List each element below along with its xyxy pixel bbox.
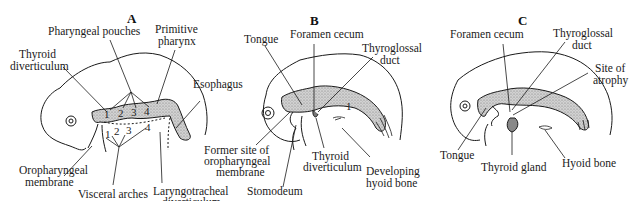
pouch-number-1: 1	[104, 108, 110, 120]
label-laryngotracheal-2: diverticulum	[162, 196, 221, 201]
arch-number-4: 4	[145, 121, 151, 133]
label-visceral-arches: Visceral arches	[78, 188, 148, 200]
label-thyroid-gland: Thyroid gland	[481, 161, 546, 173]
label-stomodeum: Stomodeum	[247, 185, 303, 197]
panel-b-letter: B	[310, 13, 319, 29]
label-oropharyngeal-1: Oropharyngeal	[19, 164, 88, 176]
panel-c-letter: C	[518, 13, 527, 29]
label-b-thyroglossal-2: duct	[380, 54, 400, 66]
label-b-tongue: Tongue	[244, 33, 278, 45]
pouch-number-3: 3	[131, 106, 137, 118]
panel-c-embryo	[451, 52, 612, 146]
label-b-foramen-cecum: Foramen cecum	[290, 28, 364, 40]
label-former-site-3: membrane	[216, 166, 265, 178]
label-site-of-atrophy-1: Site of	[595, 62, 625, 74]
arch-number-3: 3	[126, 124, 132, 136]
label-a-thyroid-div-1: Thyroid	[19, 48, 56, 60]
label-esophagus: Esophagus	[193, 78, 243, 90]
label-b-thyroid-div-2: diverticulum	[303, 161, 362, 173]
label-hyoid-bone: Hyoid bone	[562, 157, 616, 169]
pouch-number-2: 2	[118, 107, 124, 119]
arch-number-2: 2	[114, 125, 120, 137]
label-c-tongue: Tongue	[440, 149, 474, 161]
arch-number-1: 1	[105, 128, 111, 140]
b-pouch-number-1: 1	[346, 100, 352, 112]
label-c-thyroglossal-2: duct	[572, 39, 592, 51]
label-site-of-atrophy-2: atrophy	[593, 74, 628, 86]
thyroid-development-figure: A Pharyngeal pouches Primitive pharynx T…	[0, 0, 638, 201]
label-primitive-pharynx-2: pharynx	[158, 35, 196, 47]
label-primitive-pharynx-1: Primitive	[155, 23, 198, 35]
pouch-number-4: 4	[144, 105, 150, 117]
label-developing-hyoid-2: hyoid bone	[366, 177, 417, 189]
label-c-foramen-cecum: Foramen cecum	[450, 28, 524, 40]
label-developing-hyoid-1: Developing	[366, 165, 420, 177]
label-b-thyroglossal-1: Thyroglossal	[362, 42, 422, 54]
label-c-thyroglossal-1: Thyroglossal	[553, 27, 613, 39]
label-oropharyngeal-2: membrane	[25, 176, 74, 188]
panel-b-embryo	[262, 54, 402, 150]
label-a-thyroid-div-2: diverticulum	[10, 60, 69, 72]
label-pharyngeal-pouches: Pharyngeal pouches	[48, 25, 140, 37]
